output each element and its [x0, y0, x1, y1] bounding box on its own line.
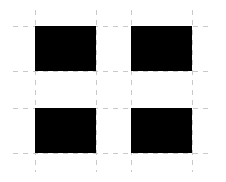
- gridline-horizontal-3: [13, 153, 213, 154]
- checkerboard-figure: [0, 0, 226, 182]
- cell-block-bottom-left: [35, 108, 96, 153]
- cell-block-top-left: [35, 26, 96, 71]
- gridline-vertical-3: [192, 10, 193, 172]
- cell-block-bottom-right: [131, 108, 192, 153]
- cell-block-top-right: [131, 26, 192, 71]
- gridline-horizontal-1: [13, 71, 213, 72]
- gridline-vertical-1: [96, 10, 97, 172]
